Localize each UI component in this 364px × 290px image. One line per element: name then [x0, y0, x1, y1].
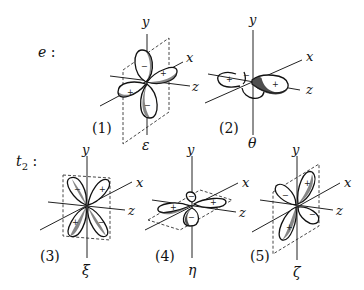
orbital-2-sign-right: +	[272, 80, 279, 89]
orbital-4-symbol: η	[188, 263, 196, 277]
orbital-5-index: (5)	[250, 249, 270, 263]
orbital-1-x-label: x	[186, 51, 193, 64]
orbital-2-x-label: x	[306, 50, 313, 63]
orbital-5-y-label: y	[292, 143, 299, 156]
orbital-5-sign-ul: −	[282, 191, 289, 200]
orbital-1-index: (1)	[92, 121, 112, 135]
orbital-4-eta: + + − −	[145, 156, 238, 258]
orbital-3-y-label: y	[82, 143, 89, 156]
orbital-2-sign-ring: −	[243, 71, 250, 80]
orbital-1-sign-right: +	[160, 69, 167, 78]
orbital-1-sign-top: −	[141, 62, 148, 71]
orbital-5-z-label: z	[336, 204, 343, 217]
orbital-4-sign-left: +	[170, 203, 177, 212]
orbital-4-sign-front: −	[188, 213, 195, 222]
orbital-4-sign-back: −	[188, 192, 195, 201]
orbital-4-y-label: y	[187, 143, 194, 156]
orbital-3-sign-ul: −	[74, 185, 81, 194]
orbital-3-x-label: x	[136, 176, 143, 189]
orbital-3-xi: − + + −	[40, 156, 132, 258]
orbital-3-z-label: z	[128, 204, 135, 217]
orbital-1-epsilon: − + + −	[100, 34, 190, 144]
orbital-2-symbol: θ	[248, 136, 256, 150]
orbital-4-sign-right: +	[210, 198, 217, 207]
orbital-3-sign-lr: −	[98, 218, 105, 227]
orbital-1-y-label: y	[142, 15, 149, 28]
orbital-4-x-label: x	[242, 176, 249, 189]
orbital-5-sign-ur: +	[304, 179, 311, 188]
orbital-2-sign-left: +	[226, 75, 233, 84]
orbital-5-sign-ll: +	[286, 223, 293, 232]
orbital-2-z-label: z	[306, 83, 313, 96]
orbital-5-sign-lr: −	[309, 210, 316, 219]
orbital-3-symbol: ξ	[82, 263, 90, 277]
orbital-1-sign-bottom: −	[144, 101, 151, 110]
orbital-1-symbol: ε	[142, 138, 150, 152]
orbital-1-sign-left: +	[127, 88, 134, 97]
orbital-3-sign-ur: +	[99, 185, 106, 194]
orbital-5-x-label: x	[344, 176, 351, 189]
orbital-diagram-canvas: − + + − + + − − + + −	[0, 0, 364, 290]
orbital-3-sign-ll: +	[72, 218, 79, 227]
orbital-3-index: (3)	[40, 249, 60, 263]
orbital-5-zeta: − + + −	[252, 156, 340, 260]
orbital-4-index: (4)	[155, 249, 175, 263]
orbital-2-y-label: y	[249, 13, 256, 26]
orbital-2-index: (2)	[219, 121, 239, 135]
orbital-5-symbol: ζ	[293, 265, 301, 279]
orbital-4-z-label: z	[239, 206, 246, 219]
orbital-1-z-label: z	[192, 80, 199, 93]
